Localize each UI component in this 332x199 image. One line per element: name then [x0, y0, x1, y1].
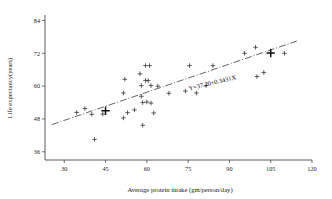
x-tick-label: 60	[144, 165, 150, 172]
equation-annotation: Y=37.20+0.3431X	[188, 73, 237, 91]
y-tick-label: 84	[34, 17, 40, 24]
data-point	[121, 91, 126, 96]
data-point	[167, 91, 172, 96]
data-point	[255, 74, 260, 79]
data-point	[92, 137, 97, 142]
data-point	[143, 63, 148, 68]
data-point	[242, 51, 247, 56]
data-point	[149, 83, 154, 88]
y-tick-label: 36	[34, 148, 40, 155]
data-point	[253, 45, 258, 50]
y-tick-label: 60	[34, 82, 40, 89]
y-axis-ticks: 3648607284	[34, 17, 45, 155]
data-point	[139, 94, 144, 99]
x-tick-label: 75	[185, 165, 191, 172]
data-point	[125, 110, 130, 115]
regression-equation-label: Y=37.20+0.3431X	[188, 73, 237, 91]
data-point	[282, 51, 287, 56]
x-tick-label: 30	[61, 165, 67, 172]
y-tick-label: 48	[34, 115, 40, 122]
data-point	[89, 112, 94, 117]
data-point	[121, 116, 126, 121]
x-tick-label: 120	[307, 165, 316, 172]
data-point	[147, 63, 152, 68]
data-point	[211, 63, 216, 68]
data-point	[146, 78, 151, 83]
data-point	[139, 83, 144, 88]
y-tick-label: 72	[34, 50, 40, 57]
scatter-plot: 3648607284 3045607590105120 Y=37.20+0.34…	[0, 0, 332, 199]
data-point	[145, 100, 150, 105]
data-point	[123, 77, 128, 82]
data-point	[74, 110, 79, 115]
data-point-highlighted	[267, 49, 275, 57]
data-point	[83, 106, 88, 111]
data-points	[74, 45, 286, 142]
data-point	[140, 123, 145, 128]
x-axis-title: Average protein intake (gm/person/day)	[127, 186, 232, 194]
plot-axes	[45, 15, 312, 160]
y-axis-title: Life expectancy(years)	[6, 58, 14, 119]
chart-page: 3648607284 3045607590105120 Y=37.20+0.34…	[0, 0, 332, 199]
data-point	[138, 72, 143, 77]
data-point	[194, 91, 199, 96]
x-tick-label: 105	[266, 165, 275, 172]
x-axis-ticks: 3045607590105120	[61, 160, 316, 172]
x-tick-label: 45	[102, 165, 108, 172]
x-tick-label: 90	[226, 165, 232, 172]
data-point	[140, 100, 145, 105]
data-point	[187, 63, 192, 68]
data-point	[101, 112, 106, 117]
data-point	[151, 111, 156, 116]
data-point	[132, 108, 137, 113]
regression-line	[52, 41, 297, 125]
data-point	[149, 101, 154, 106]
data-point	[183, 89, 188, 94]
data-point	[262, 70, 267, 75]
fit-line	[52, 41, 297, 125]
